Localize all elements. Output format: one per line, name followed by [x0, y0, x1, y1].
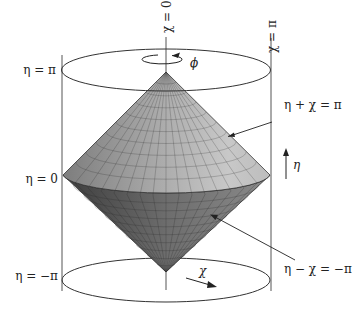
- future-cone-label: η + χ = π: [284, 98, 342, 112]
- eta-axis-label: η: [293, 158, 301, 172]
- past-cone-leader: [215, 217, 295, 260]
- chi-pi-label: χ = π: [265, 20, 279, 53]
- eta-direction-arrow-icon: [283, 148, 289, 179]
- chi-axis-label: χ: [198, 264, 207, 278]
- past-cone-label: η − χ = −π: [284, 262, 352, 276]
- phi-label: ϕ: [190, 56, 198, 70]
- chi-direction-arrow-icon: [186, 278, 217, 288]
- upper-cone: [63, 72, 270, 195]
- eta-minus-pi-label: η = −π: [15, 269, 58, 283]
- eta-zero-label: η = 0: [25, 172, 58, 186]
- eta-pi-label: η = π: [23, 63, 56, 77]
- chi-zero-label: χ = 0: [160, 0, 174, 33]
- conformal-diagram: ϕ χ = 0 χ = π η = π η = 0 η = −π η + χ =…: [0, 0, 357, 318]
- future-cone-leader: [233, 122, 272, 135]
- phi-rotation-arrow-icon: [142, 53, 182, 64]
